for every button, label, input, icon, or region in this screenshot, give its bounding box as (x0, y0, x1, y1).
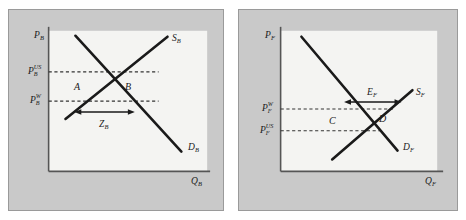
left-area-b-label: B (125, 82, 131, 92)
right-demand-label: DF (403, 143, 414, 153)
panel-home-market: PB QB PUSB PWB SB DB A B ZB (8, 9, 224, 211)
left-area-a-label: A (74, 82, 80, 92)
left-price-us-label: PUSB (28, 67, 34, 77)
left-x-axis-label: QB (191, 177, 202, 187)
right-e-arrow-label: EF (367, 88, 377, 98)
economics-two-panel-figure: PB QB PUSB PWB SB DB A B ZB (0, 0, 466, 220)
panel-foreign-market: PF QF PWF PUSF SF DF C D EF (238, 9, 458, 211)
left-z-arrow-label: ZB (99, 120, 108, 130)
right-area-d-label: D (379, 114, 386, 124)
right-y-axis-label: PF (265, 31, 275, 41)
left-demand-label: DB (188, 143, 199, 153)
right-supply-label: SF (416, 88, 425, 98)
right-area-c-label: C (329, 116, 336, 126)
right-price-w-label: PWF (262, 104, 268, 114)
left-supply-label: SB (172, 34, 181, 44)
right-price-us-label: PUSF (260, 126, 266, 136)
right-x-axis-label: QF (425, 177, 436, 187)
left-y-axis-label: PB (34, 31, 44, 41)
left-price-w-label: PWB (30, 96, 36, 106)
